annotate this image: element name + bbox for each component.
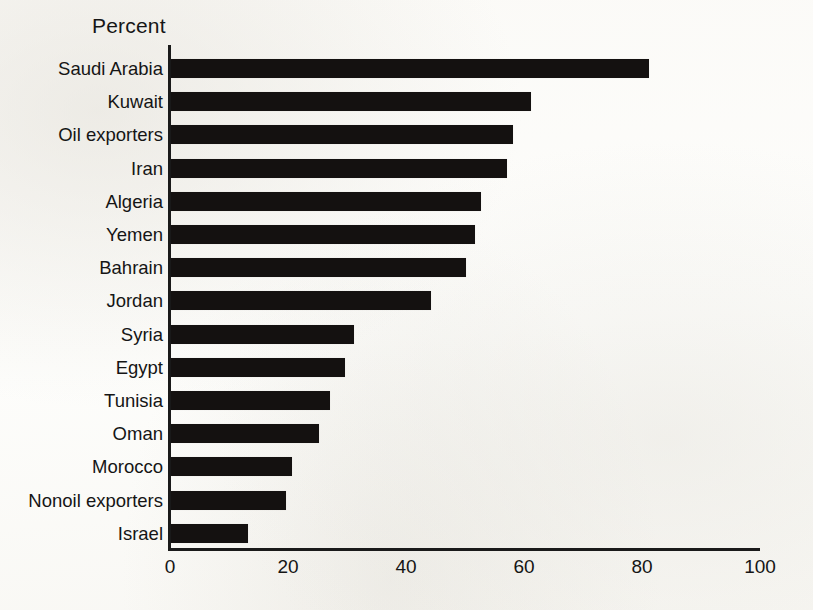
bar-row: Syria — [170, 318, 813, 351]
bar — [171, 225, 475, 244]
plot-area: Saudi ArabiaKuwaitOil exportersIranAlger… — [170, 52, 760, 550]
bar-category-label: Nonoil exporters — [0, 490, 163, 511]
bar-category-label: Iran — [0, 158, 163, 179]
bar-category-label: Morocco — [0, 456, 163, 477]
bar — [171, 92, 531, 111]
x-axis-tick-label: 20 — [248, 556, 328, 578]
bar-row: Algeria — [170, 185, 813, 218]
bar — [171, 391, 330, 410]
bar — [171, 59, 649, 78]
bar-row: Oil exporters — [170, 118, 813, 151]
x-axis-tick-label: 100 — [720, 556, 800, 578]
bar-row: Bahrain — [170, 251, 813, 284]
x-axis-tick-label: 40 — [366, 556, 446, 578]
bar — [171, 325, 354, 344]
bar — [171, 424, 319, 443]
bar-category-label: Jordan — [0, 290, 163, 311]
bar — [171, 457, 292, 476]
axis-title-percent: Percent — [92, 14, 166, 38]
x-axis-tick-label: 80 — [602, 556, 682, 578]
bar-category-label: Oman — [0, 423, 163, 444]
bar-category-label: Yemen — [0, 224, 163, 245]
bar-row: Kuwait — [170, 85, 813, 118]
bar-category-label: Tunisia — [0, 390, 163, 411]
x-axis-tick-label: 60 — [484, 556, 564, 578]
bar-category-label: Kuwait — [0, 91, 163, 112]
bar-category-label: Algeria — [0, 191, 163, 212]
bar-row: Yemen — [170, 218, 813, 251]
bar — [171, 192, 481, 211]
bar-category-label: Syria — [0, 324, 163, 345]
bar-row: Saudi Arabia — [170, 52, 813, 85]
bar — [171, 258, 466, 277]
bar — [171, 159, 507, 178]
bar — [171, 125, 513, 144]
bar — [171, 524, 248, 543]
bar-row: Iran — [170, 152, 813, 185]
bar — [171, 358, 345, 377]
bar-category-label: Egypt — [0, 357, 163, 378]
bar-category-label: Israel — [0, 523, 163, 544]
bar-category-label: Oil exporters — [0, 124, 163, 145]
x-axis-tick-label: 0 — [130, 556, 210, 578]
bar-row: Jordan — [170, 284, 813, 317]
bar-row: Nonoil exporters — [170, 484, 813, 517]
bar — [171, 291, 431, 310]
bar-row: Israel — [170, 517, 813, 550]
bar-category-label: Saudi Arabia — [0, 58, 163, 79]
chart-page: Percent Saudi ArabiaKuwaitOil exportersI… — [0, 0, 813, 610]
bar — [171, 491, 286, 510]
bar-category-label: Bahrain — [0, 257, 163, 278]
bar-row: Morocco — [170, 450, 813, 483]
bar-row: Egypt — [170, 351, 813, 384]
bar-row: Oman — [170, 417, 813, 450]
bar-row: Tunisia — [170, 384, 813, 417]
